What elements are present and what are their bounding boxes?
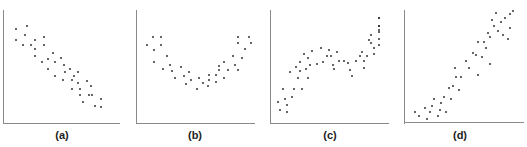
data-point: [481, 56, 483, 58]
data-point: [196, 88, 198, 90]
data-point: [73, 75, 75, 77]
data-point: [79, 88, 81, 90]
data-point: [363, 60, 365, 62]
data-point: [309, 64, 311, 66]
plot-area: [4, 12, 116, 120]
data-point: [190, 79, 192, 81]
data-point: [303, 53, 305, 55]
data-point: [63, 64, 65, 66]
data-point: [180, 66, 182, 68]
data-point: [79, 94, 81, 96]
data-point: [424, 107, 426, 109]
data-point: [378, 44, 380, 46]
data-point: [491, 19, 493, 21]
data-point: [41, 61, 43, 63]
data-point: [338, 60, 340, 62]
data-point: [291, 96, 293, 98]
data-point: [218, 65, 220, 67]
panel-label: (a): [42, 129, 82, 141]
data-point: [43, 36, 45, 38]
data-point: [460, 76, 462, 78]
data-point: [166, 55, 168, 57]
data-point: [160, 36, 162, 38]
x-axis: [404, 122, 524, 123]
data-point: [218, 69, 220, 71]
data-point: [378, 17, 380, 19]
data-point: [223, 61, 225, 63]
data-point: [429, 111, 431, 113]
data-point: [185, 83, 187, 85]
data-point: [26, 25, 28, 27]
data-point: [489, 36, 491, 38]
data-point: [188, 71, 190, 73]
scatter-panel-b: (b): [130, 0, 265, 147]
data-point: [366, 55, 368, 57]
data-point: [152, 36, 154, 38]
data-point: [437, 115, 439, 117]
data-point: [54, 61, 56, 63]
data-point: [439, 109, 441, 111]
data-point: [477, 74, 479, 76]
data-point: [43, 44, 45, 46]
plot-area: [274, 12, 378, 120]
data-point: [34, 55, 36, 57]
data-point: [301, 88, 303, 90]
data-point: [378, 31, 380, 33]
data-point: [86, 80, 88, 82]
data-point: [495, 12, 497, 14]
data-point: [34, 48, 36, 50]
scatter-panel-d: (d): [395, 0, 527, 147]
data-point: [237, 69, 239, 71]
data-point: [299, 61, 301, 63]
data-point: [443, 96, 445, 98]
data-point: [418, 115, 420, 117]
x-axis: [270, 123, 389, 124]
data-point: [215, 81, 217, 83]
data-point: [333, 68, 335, 70]
data-point: [90, 85, 92, 87]
data-point: [282, 88, 284, 90]
data-point: [361, 51, 363, 53]
data-point: [489, 63, 491, 65]
data-point: [60, 57, 62, 59]
data-point: [363, 67, 365, 69]
data-point: [370, 34, 372, 36]
data-point: [160, 44, 162, 46]
data-point: [183, 75, 185, 77]
data-point: [347, 62, 349, 64]
data-point: [512, 10, 514, 12]
data-point: [307, 77, 309, 79]
y-axis: [404, 10, 405, 124]
data-point: [250, 42, 252, 44]
y-axis: [136, 10, 137, 124]
plot-area: [140, 12, 252, 120]
data-point: [77, 71, 79, 73]
data-point: [465, 60, 467, 62]
data-point: [502, 34, 504, 36]
data-point: [414, 111, 416, 113]
data-point: [208, 79, 210, 81]
data-point: [509, 13, 511, 15]
data-point: [279, 109, 281, 111]
data-point: [234, 64, 236, 66]
data-point: [215, 74, 217, 76]
data-point: [316, 63, 318, 65]
plot-area: [408, 10, 512, 120]
panel-label: (d): [440, 129, 480, 141]
data-point: [431, 105, 433, 107]
data-point: [198, 77, 200, 79]
data-point: [30, 44, 32, 46]
data-point: [485, 47, 487, 49]
data-point: [440, 102, 442, 104]
data-point: [359, 55, 361, 57]
panel-label: (c): [310, 129, 350, 141]
data-point: [15, 39, 17, 41]
data-point: [458, 89, 460, 91]
data-point: [64, 71, 66, 73]
data-point: [237, 36, 239, 38]
data-point: [483, 41, 485, 43]
data-point: [504, 17, 506, 19]
data-point: [445, 111, 447, 113]
data-point: [343, 60, 345, 62]
data-point: [477, 41, 479, 43]
